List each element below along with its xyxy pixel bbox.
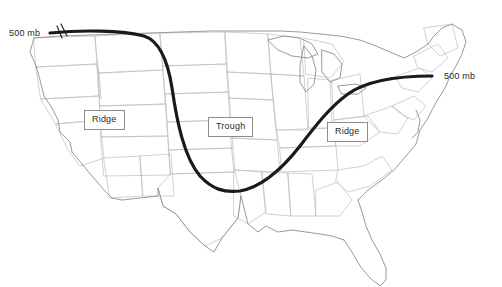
us-map-svg	[0, 0, 502, 287]
weather-map-figure: 500 mb 500 mb Ridge Trough Ridge	[0, 0, 502, 287]
ridge-label-west: Ridge	[84, 110, 125, 130]
pressure-level-label-right: 500 mb	[444, 72, 475, 81]
ridge-label-east: Ridge	[327, 122, 368, 142]
pressure-level-label-left: 500 mb	[9, 29, 40, 38]
us-national-outline	[30, 24, 466, 286]
trough-label-center: Trough	[208, 117, 253, 137]
